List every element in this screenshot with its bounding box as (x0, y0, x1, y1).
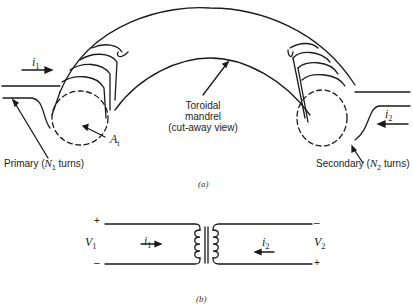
secondary-label: Secondary (N2 turns) (316, 157, 410, 172)
primary-label: Primary (N1 turns) (4, 157, 84, 172)
i2-label: i2 (385, 108, 393, 124)
v1-top-wire (105, 224, 200, 230)
v2-plus: + (314, 257, 320, 268)
primary-winding (62, 45, 128, 118)
primary-coil (195, 230, 200, 258)
area-arrow (85, 127, 105, 137)
caption-a: (a) (198, 180, 209, 190)
v1-minus: – (94, 257, 100, 268)
v1-label: V1 (85, 236, 97, 252)
toroidal-transformer-diagram (0, 0, 413, 308)
secondary-winding (288, 44, 345, 123)
primary-cross-section (52, 91, 108, 145)
v2-bottom-wire (213, 258, 312, 264)
v1-bottom-wire (105, 258, 200, 264)
i2-label-b: i2 (262, 236, 270, 252)
mandrel-leader (203, 62, 228, 95)
torus-outer-edge (60, 8, 355, 92)
caption-b: (b) (196, 295, 207, 305)
area-label: At (110, 133, 120, 149)
secondary-coil (213, 230, 218, 258)
i1-label-b: i1 (144, 235, 152, 251)
i1-label: i1 (32, 56, 40, 72)
mandrel-label: Toroidal mandrel (cut-away view) (163, 100, 243, 133)
v1-plus: + (94, 215, 100, 226)
v2-label: V2 (314, 236, 326, 252)
v2-top-wire (213, 224, 312, 230)
v2-minus: – (314, 217, 320, 228)
